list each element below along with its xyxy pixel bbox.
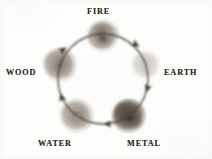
label-earth: EARTH xyxy=(164,69,197,77)
arrowhead-wood-to-fire xyxy=(58,44,69,55)
label-fire: FIRE xyxy=(87,8,110,16)
cycle-ring-layer xyxy=(0,0,212,159)
label-wood: WOOD xyxy=(6,69,36,77)
five-elements-figure: FIRE EARTH METAL WATER WOOD xyxy=(0,0,212,159)
cycle-ring xyxy=(58,34,148,124)
label-metal: METAL xyxy=(127,140,161,148)
arrowhead-water-to-wood xyxy=(57,92,66,102)
label-water: WATER xyxy=(38,140,72,148)
